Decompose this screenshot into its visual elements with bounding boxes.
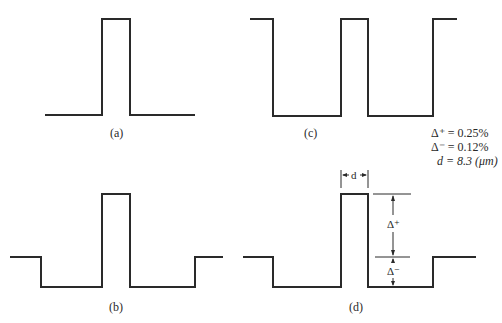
profile-diagram: d Δ⁺ Δ⁻ bbox=[0, 0, 502, 323]
panel-label-b: (b) bbox=[109, 300, 123, 315]
delta-dimension-marker: Δ⁺ Δ⁻ bbox=[373, 194, 411, 286]
param-delta-plus: Δ⁺ = 0.25% bbox=[431, 126, 488, 140]
d-dimension-marker: d bbox=[341, 169, 368, 188]
panel-label-d: (d) bbox=[349, 300, 363, 315]
profile-d-trace bbox=[243, 194, 476, 287]
param-d: d = 8.3 (μm) bbox=[437, 154, 498, 168]
param-delta-minus: Δ⁻ = 0.12% bbox=[431, 140, 488, 154]
profile-c-trace bbox=[250, 19, 457, 116]
delta-plus-label: Δ⁺ bbox=[387, 218, 400, 230]
panel-label-c: (c) bbox=[304, 126, 317, 141]
profile-b-trace bbox=[10, 194, 223, 287]
profile-a-trace bbox=[45, 19, 195, 115]
d-label: d bbox=[351, 169, 357, 181]
delta-minus-label: Δ⁻ bbox=[387, 265, 400, 277]
panel-label-a: (a) bbox=[110, 126, 123, 141]
